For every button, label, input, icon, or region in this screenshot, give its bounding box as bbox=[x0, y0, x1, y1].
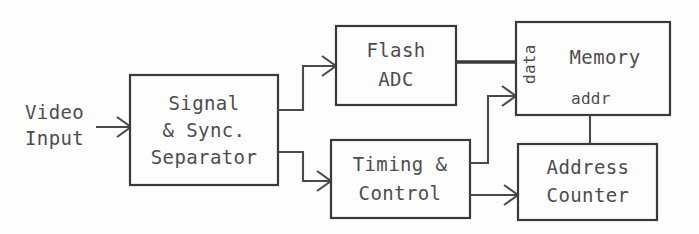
block-flash-adc[interactable]: Flash ADC bbox=[336, 26, 456, 105]
connection-separator-to-timing-control bbox=[278, 152, 331, 191]
memory-port-addr-label: addr bbox=[571, 89, 611, 108]
block-timing-control[interactable]: Timing & Control bbox=[331, 140, 470, 218]
timing-control-label-line1: Timing & bbox=[353, 153, 448, 175]
block-diagram: Video Input Signal & Sync. Separator Fla… bbox=[0, 0, 699, 234]
block-memory[interactable]: Memory data addr bbox=[516, 22, 670, 115]
connection-timing-control-to-address-counter bbox=[470, 185, 518, 205]
video-input-label-line2: Input bbox=[25, 127, 84, 149]
address-counter-label-line2: Counter bbox=[547, 184, 630, 206]
memory-label: Memory bbox=[569, 46, 640, 68]
signal-sync-separator-label-line2: & Sync. bbox=[163, 119, 246, 141]
block-address-counter[interactable]: Address Counter bbox=[518, 144, 657, 220]
signal-sync-separator-label-line3: Separator bbox=[151, 146, 258, 168]
flash-adc-label-line2: ADC bbox=[378, 68, 414, 90]
timing-control-label-line2: Control bbox=[359, 182, 442, 204]
address-counter-label-line1: Address bbox=[547, 156, 630, 178]
video-input-label-line1: Video bbox=[25, 101, 84, 123]
external-input-video: Video Input bbox=[25, 101, 131, 149]
connection-separator-to-flash-adc bbox=[278, 56, 336, 110]
diagram-canvas: Video Input Signal & Sync. Separator Fla… bbox=[0, 0, 699, 234]
wire-separator-to-timing-control bbox=[278, 152, 331, 181]
block-signal-sync-separator[interactable]: Signal & Sync. Separator bbox=[130, 75, 278, 185]
connection-timing-control-to-memory-addr bbox=[470, 86, 516, 163]
wire-timing-control-to-memory-addr bbox=[470, 96, 516, 163]
memory-port-data-label: data bbox=[520, 44, 539, 84]
flash-adc-label-line1: Flash bbox=[366, 39, 425, 61]
signal-sync-separator-label-line1: Signal bbox=[168, 92, 239, 114]
